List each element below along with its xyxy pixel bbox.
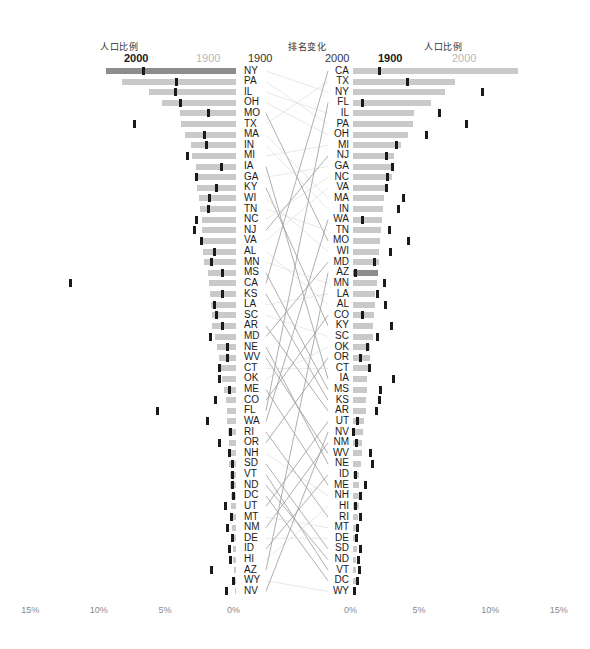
- chart-root: 人口比例 排名变化 人口比例 2000 1900 1900 2000 1900 …: [0, 0, 590, 649]
- axis-tick-right-10: 10%: [481, 605, 499, 615]
- axis-tick-left-5: 5%: [158, 605, 171, 615]
- axis-tick-left-10: 10%: [90, 605, 108, 615]
- axis-tick-right-5: 5%: [413, 605, 426, 615]
- axis-tick-left-15: 15%: [21, 605, 39, 615]
- axis-tick-right-0: 0%: [344, 605, 357, 615]
- axis-labels: 15%10%5%0%0%5%10%15%: [0, 0, 590, 649]
- axis-tick-left-0: 0%: [227, 605, 240, 615]
- axis-tick-right-15: 15%: [550, 605, 568, 615]
